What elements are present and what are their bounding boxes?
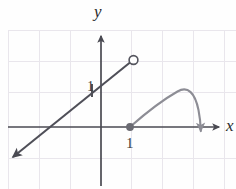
y-tick-label-one: 1 [87,80,94,94]
x-point-label-one: 1 [126,136,134,151]
graph-figure: y x 1 1 [0,0,236,189]
filled-dot-marker [126,123,134,131]
y-axis-label: y [94,3,102,20]
canvas-background [0,0,236,189]
graph-canvas [0,0,236,189]
open-circle-marker [129,56,138,65]
x-axis-label: x [226,117,234,134]
